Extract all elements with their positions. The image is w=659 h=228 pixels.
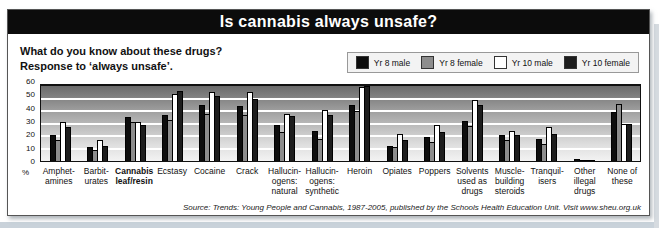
question-text: What do you know about these drugs? Resp…: [20, 44, 222, 75]
legend-item: Yr 8 female: [421, 56, 482, 69]
bar-yr-10-female: [102, 146, 108, 161]
legend-item: Yr 10 male: [494, 56, 553, 69]
bar-group: [528, 86, 565, 161]
bar-yr-10-female: [327, 115, 333, 161]
bar-yr-10-female: [477, 105, 483, 161]
bar-group: [341, 86, 378, 161]
bar-group: [453, 86, 490, 161]
legend: Yr 8 maleYr 8 femaleYr 10 maleYr 10 fema…: [347, 52, 639, 73]
y-tick-label: 50: [16, 91, 35, 99]
x-axis-category-label: Hallucin- ogens: synthetic: [303, 166, 341, 197]
x-axis-category-label: Solvents used as drugs: [453, 166, 491, 197]
y-tick-label: 0: [16, 158, 35, 166]
bar-yr-10-female: [439, 132, 445, 161]
page: Is cannabis always unsafe? What do you k…: [0, 0, 659, 228]
y-tick-label: 20: [16, 131, 35, 139]
bar-group: [41, 86, 78, 161]
bar-yr-10-female: [252, 99, 258, 162]
scan-edge-right: [654, 24, 659, 228]
scan-edge-bottom: [0, 222, 659, 228]
question-line-2: Response to ‘always unsafe’.: [20, 59, 222, 74]
bar-yr-10-female: [65, 127, 71, 161]
question-line-1: What do you know about these drugs?: [20, 44, 222, 59]
bar-group: [303, 86, 340, 161]
x-axis-category-label: None of these: [603, 166, 641, 197]
y-tick-label: 10: [16, 145, 35, 153]
bar-group: [78, 86, 115, 161]
y-tick-label: 40: [16, 105, 35, 113]
bar-yr-10-female: [402, 140, 408, 161]
subtitle-row: What do you know about these drugs? Resp…: [8, 36, 649, 80]
x-axis-category-label: Hallucin- ogens: natural: [266, 166, 304, 197]
legend-label: Yr 8 male: [374, 58, 410, 68]
y-tick-label: 30: [16, 118, 35, 126]
x-axis-category-label: Heroin: [341, 166, 379, 197]
bar-yr-10-female: [514, 135, 520, 161]
x-axis-category-label: Crack: [228, 166, 266, 197]
bar-group: [565, 86, 602, 161]
chart: 0102030405060 % Amphet- aminesBarbit- ur…: [16, 82, 641, 204]
x-axis-category-label: Poppers: [416, 166, 454, 197]
x-axis-category-label: Cannabis leaf/resin: [115, 166, 153, 197]
plot-area: [40, 84, 641, 162]
bar-group: [266, 86, 303, 161]
source-citation: Source: Trends: Young People and Cannabi…: [16, 203, 641, 212]
x-axis-category-label: Tranquil- isers: [528, 166, 566, 197]
x-axis-category-label: Other illegal drugs: [566, 166, 604, 197]
bar-yr-10-female: [589, 160, 595, 161]
legend-label: Yr 10 male: [512, 58, 553, 68]
x-axis-category-label: Amphet- amines: [40, 166, 78, 197]
bar-group: [490, 86, 527, 161]
bar-group: [191, 86, 228, 161]
bar-yr-10-female: [177, 91, 183, 161]
y-axis-unit-label: %: [22, 168, 29, 177]
x-axis-category-label: Ecstasy: [153, 166, 191, 197]
y-tick-label: 60: [16, 78, 35, 86]
legend-swatch-icon: [564, 56, 577, 69]
page-title: Is cannabis always unsafe?: [220, 13, 438, 31]
legend-label: Yr 8 female: [439, 58, 482, 68]
legend-item: Yr 10 female: [564, 56, 630, 69]
bar-yr-10-female: [140, 125, 146, 161]
x-axis-category-label: Muscle- building steroids: [491, 166, 529, 197]
bar-group: [378, 86, 415, 161]
legend-swatch-icon: [494, 56, 507, 69]
x-axis-category-label: Opiates: [378, 166, 416, 197]
legend-swatch-icon: [356, 56, 369, 69]
bar-group: [153, 86, 190, 161]
bar-group: [415, 86, 452, 161]
legend-swatch-icon: [421, 56, 434, 69]
x-axis-category-label: Barbit- urates: [78, 166, 116, 197]
legend-item: Yr 8 male: [356, 56, 410, 69]
x-axis-category-label: Cocaine: [191, 166, 229, 197]
bar-group: [228, 86, 265, 161]
legend-label: Yr 10 female: [582, 58, 630, 68]
y-axis: 0102030405060: [16, 82, 38, 162]
bar-yr-10-female: [214, 96, 220, 161]
chart-panel: Is cannabis always unsafe? What do you k…: [7, 9, 650, 216]
title-banner: Is cannabis always unsafe?: [8, 10, 649, 34]
bar-yr-10-female: [289, 116, 295, 161]
bar-group: [603, 86, 640, 161]
bar-yr-10-female: [551, 134, 557, 162]
bar-yr-10-female: [626, 124, 632, 162]
bar-yr-10-female: [364, 86, 370, 161]
x-axis-labels: Amphet- aminesBarbit- uratesCannabis lea…: [40, 166, 641, 197]
bar-group: [116, 86, 153, 161]
